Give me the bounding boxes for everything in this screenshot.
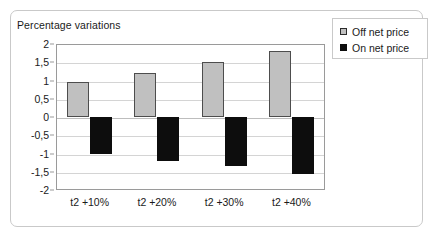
legend-entry-on-net-price[interactable]: On net price: [340, 40, 427, 55]
y-tick-mark: [50, 171, 54, 172]
bar-group: [56, 44, 123, 190]
x-tick-label: t2 +40%: [272, 196, 311, 208]
y-tick-mark: [50, 190, 54, 191]
y-tick-label: 1: [43, 75, 49, 87]
y-tick-label: 0: [43, 111, 49, 123]
bar-group: [123, 44, 190, 190]
legend-entry-off-net-price[interactable]: Off net price: [340, 24, 427, 39]
y-tick-mark: [50, 117, 54, 118]
legend-label: Off net price: [352, 26, 409, 38]
bars-layer: [56, 44, 325, 190]
y-tick-label: -1: [40, 148, 49, 160]
y-axis: 21,510,50-0,5-1-1,5-2: [10, 44, 54, 190]
y-tick-label: -1,5: [31, 166, 49, 178]
y-tick-mark: [50, 98, 54, 99]
y-tick-label: 2: [43, 38, 49, 50]
bar-off-net-price: [269, 51, 291, 117]
y-tick-mark: [50, 80, 54, 81]
legend-label: On net price: [352, 42, 409, 54]
plot-area-wrapper: [56, 44, 325, 190]
y-tick-label: 1,5: [34, 56, 49, 68]
x-axis: t2 +10%t2 +20%t2 +30%t2 +40%: [56, 196, 325, 216]
bar-on-net-price: [292, 117, 314, 174]
bar-off-net-price: [67, 82, 89, 117]
y-tick-mark: [50, 153, 54, 154]
y-tick-label: -0,5: [31, 129, 49, 141]
legend: Off net price On net price: [332, 18, 428, 59]
y-tick-label: 0,5: [34, 93, 49, 105]
bar-group: [191, 44, 258, 190]
y-tick-mark: [50, 135, 54, 136]
bar-off-net-price: [134, 73, 156, 117]
black-square-swatch-icon: [340, 44, 347, 51]
chart-title: Percentage variations: [17, 19, 121, 31]
x-tick-label: t2 +30%: [205, 196, 244, 208]
y-tick-label: -2: [40, 184, 49, 196]
y-tick-mark: [50, 44, 54, 45]
bar-off-net-price: [202, 62, 224, 117]
bar-on-net-price: [90, 117, 112, 154]
bar-on-net-price: [225, 117, 247, 166]
x-tick-label: t2 +20%: [137, 196, 176, 208]
gray-square-swatch-icon: [340, 28, 347, 35]
bar-on-net-price: [157, 117, 179, 161]
x-tick-label: t2 +10%: [70, 196, 109, 208]
bar-group: [258, 44, 325, 190]
y-tick-mark: [50, 62, 54, 63]
